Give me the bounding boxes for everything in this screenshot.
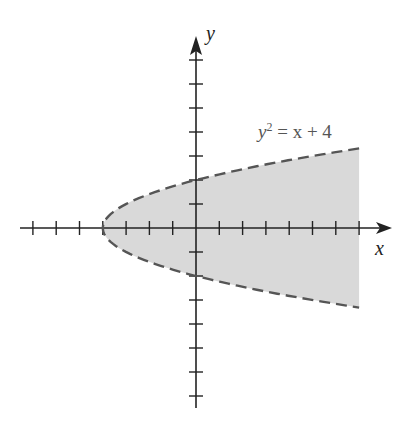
graph: y x y2 = x + 4 [0,0,406,438]
x-axis-label: x [374,237,384,259]
y-axis-label: y [204,22,215,45]
equation-label: y2 = x + 4 [256,120,332,142]
